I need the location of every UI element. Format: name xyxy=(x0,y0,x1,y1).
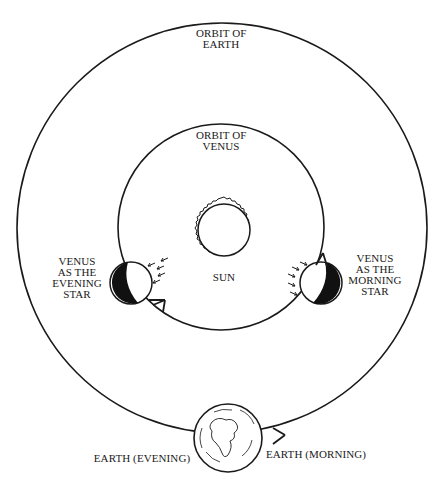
venus-evening-label: VENUS AS THE EVENING STAR xyxy=(50,256,104,300)
sun-icon xyxy=(195,197,250,256)
earth-morning-label: EARTH (MORNING) xyxy=(264,449,368,460)
earth-orbit-arrow xyxy=(273,428,285,444)
earth-evening-label: EARTH (EVENING) xyxy=(92,453,192,464)
venus-orbit-arrow-evening xyxy=(149,300,165,312)
orbit-venus-label: ORBIT OF VENUS xyxy=(196,130,246,152)
venus-morning-star-icon xyxy=(300,262,342,304)
venus-morning-label: VENUS AS THE MORNING STAR xyxy=(347,253,403,297)
earth-globe-icon xyxy=(194,404,262,472)
sun-label: SUN xyxy=(204,272,244,283)
orbit-diagram xyxy=(0,0,441,486)
orbit-earth-label: ORBIT OF EARTH xyxy=(196,28,246,50)
venus-evening-star-icon xyxy=(110,262,152,304)
